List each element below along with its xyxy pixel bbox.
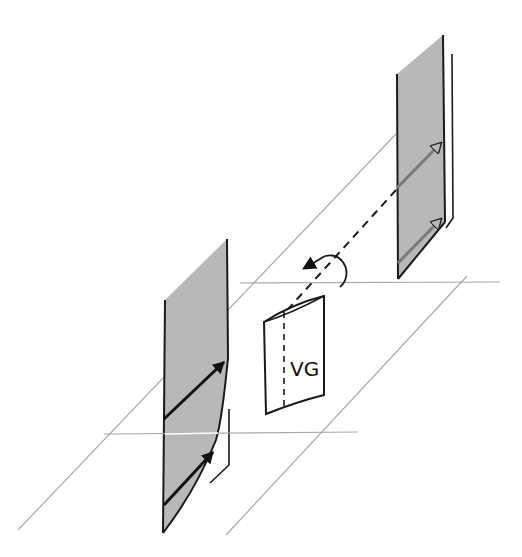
upstream-panel-fill <box>397 35 445 279</box>
downstream-panel-fill <box>163 239 228 533</box>
guide-diagonal-right <box>226 276 467 535</box>
vortex-generator-label: VG <box>290 359 319 379</box>
vortex-generator-outline <box>264 296 324 414</box>
diagram-canvas <box>0 0 522 557</box>
upstream-panel-left-edge <box>397 74 398 279</box>
vortex-axis-dashed <box>280 190 396 318</box>
upstream-panel-offset-line <box>446 54 453 228</box>
vortex-generator <box>264 296 324 414</box>
upstream-panel <box>397 35 453 279</box>
guide-horizontal-lower-highlight <box>165 433 218 434</box>
downstream-panel <box>163 239 229 533</box>
